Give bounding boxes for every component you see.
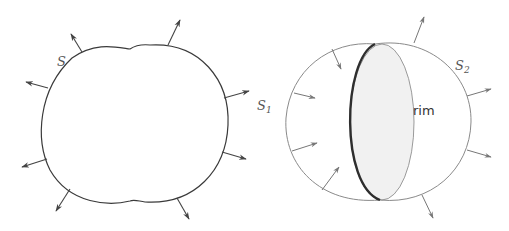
surface-s-outline: [41, 45, 228, 203]
label-s2-subscript: 2: [463, 65, 470, 75]
normal-arrow-icon: [26, 82, 48, 88]
right-figure: S1 S2 rim: [257, 17, 491, 218]
label-s1: S1: [257, 98, 272, 115]
diagram-canvas: S S1 S2 rim: [0, 0, 509, 231]
normal-arrow-icon: [222, 152, 246, 159]
outward-normal-arrow-icon: [422, 195, 433, 218]
label-s: S: [57, 54, 66, 69]
normal-arrow-icon: [56, 189, 70, 211]
s1-inward-normals-group: [292, 49, 341, 190]
normal-arrow-icon: [177, 198, 189, 219]
outward-normal-arrow-icon: [414, 17, 424, 43]
normal-arrow-icon: [224, 91, 249, 98]
outward-normal-arrow-icon: [467, 150, 491, 157]
label-s2: S2: [455, 58, 470, 75]
inward-normal-arrow-icon: [332, 49, 341, 69]
label-rim: rim: [413, 103, 435, 118]
outward-normal-arrow-icon: [467, 89, 491, 96]
inward-normal-arrow-icon: [292, 143, 317, 151]
label-s2-main: S: [455, 58, 464, 73]
left-figure: S: [22, 20, 249, 219]
label-s1-subscript: 1: [266, 105, 272, 115]
outward-normals-group: [22, 20, 249, 219]
normal-arrow-icon: [71, 34, 82, 52]
normal-arrow-icon: [168, 20, 180, 45]
normal-arrow-icon: [22, 159, 47, 167]
inward-normal-arrow-icon: [294, 93, 315, 98]
label-s1-main: S: [257, 98, 266, 113]
inward-normal-arrow-icon: [322, 167, 339, 190]
